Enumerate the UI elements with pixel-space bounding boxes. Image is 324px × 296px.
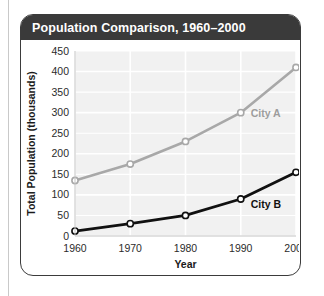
y-axis-tick-label: 400 [51, 65, 69, 77]
data-point-marker [127, 161, 133, 167]
y-axis-tick-label: 150 [51, 168, 69, 180]
y-axis-tick-label: 450 [51, 45, 69, 57]
chart-body: 0501001502002503003504004501960197019801… [21, 40, 300, 275]
data-point-marker [182, 138, 188, 144]
x-axis-tick-label: 1990 [229, 242, 253, 254]
population-line-chart: 0501001502002503003504004501960197019801… [21, 40, 299, 275]
y-axis-tick-label: 350 [51, 86, 69, 98]
y-axis-tick-label: 0 [63, 230, 69, 242]
series-label-city-a: City A [251, 107, 281, 119]
x-axis-tick-label: 1960 [63, 242, 87, 254]
data-point-marker [127, 221, 133, 227]
series-label-city-b: City B [251, 198, 282, 210]
y-axis-tick-label: 250 [51, 127, 69, 139]
chart-card: Population Comparison, 1960–2000 0501001… [20, 14, 301, 276]
y-axis-tick-label: 100 [51, 188, 69, 200]
page-margin-rule [8, 0, 9, 296]
x-axis-tick-label: 1970 [119, 242, 143, 254]
data-point-marker [238, 196, 244, 202]
chart-card-header: Population Comparison, 1960–2000 [21, 15, 300, 40]
page-title: Population Comparison, 1960–2000 [32, 21, 246, 35]
y-axis-tick-label: 300 [51, 106, 69, 118]
data-point-marker [182, 212, 188, 218]
x-axis-tick-label: 1980 [174, 242, 198, 254]
y-axis-tick-label: 200 [51, 147, 69, 159]
data-point-marker [293, 169, 299, 175]
y-axis-title: Total Population (thousands) [25, 71, 37, 215]
x-axis-tick-label: 2000 [284, 242, 299, 254]
data-point-marker [293, 64, 299, 70]
data-point-marker [238, 110, 244, 116]
y-axis-tick-label: 50 [57, 209, 69, 221]
x-axis-title: Year [174, 258, 196, 270]
